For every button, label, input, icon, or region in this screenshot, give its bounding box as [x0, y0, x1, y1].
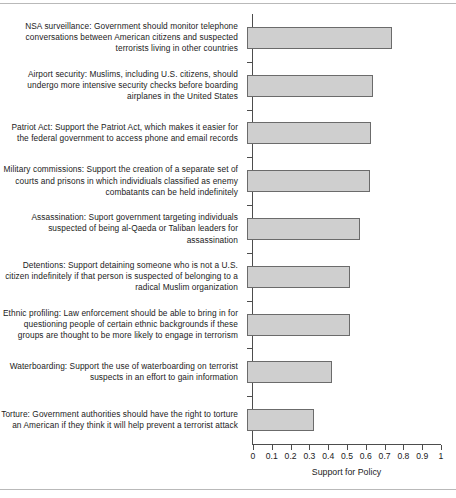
x-axis-tick	[328, 445, 329, 450]
bar	[247, 409, 314, 431]
bar-category-label: Ethnic profiling: Law enforcement should…	[0, 308, 246, 342]
x-axis-tick	[403, 445, 404, 450]
bar	[247, 314, 350, 336]
x-axis-tick-label: 0.9	[416, 451, 428, 461]
bar-row: Waterboarding: Support the use of waterb…	[0, 348, 456, 396]
bar-track	[246, 157, 456, 205]
x-axis-tick	[441, 445, 442, 450]
x-axis-tick	[253, 445, 254, 450]
x-axis-label: Support for Policy	[252, 467, 441, 477]
x-axis-tick-label: 0.7	[379, 451, 391, 461]
x-axis-tick-label: 0	[251, 451, 256, 461]
x-axis-tick	[385, 445, 386, 450]
bar-track	[246, 62, 456, 110]
bar-track	[246, 301, 456, 349]
bar-track	[246, 110, 456, 158]
x-axis-tick-label: 0.1	[266, 451, 278, 461]
bar	[247, 218, 360, 240]
x-axis-tick-label: 0.4	[322, 451, 334, 461]
bar-track	[246, 348, 456, 396]
bar-row: Assassination: Suport government targeti…	[0, 205, 456, 253]
bar	[247, 266, 350, 288]
bar	[247, 122, 371, 144]
bar-category-label: NSA surveillance: Government should moni…	[0, 21, 246, 55]
x-axis-tick	[309, 445, 310, 450]
bar-category-label: Patriot Act: Support the Patriot Act, wh…	[0, 122, 246, 144]
bar-row: Ethnic profiling: Law enforcement should…	[0, 301, 456, 349]
x-axis-tick-label: 0.6	[360, 451, 372, 461]
x-axis-tick-label: 0.3	[303, 451, 315, 461]
bar-category-label: Assassination: Suport government targeti…	[0, 212, 246, 246]
x-axis-tick	[347, 445, 348, 450]
bar-row: Patriot Act: Support the Patriot Act, wh…	[0, 110, 456, 158]
bar-track	[246, 396, 456, 444]
x-axis-tick-label: 0.2	[285, 451, 297, 461]
bar-row: Torture: Government authorities should h…	[0, 396, 456, 444]
x-axis-tick	[291, 445, 292, 450]
x-axis-tick-label: 1	[439, 451, 444, 461]
x-axis-tick	[366, 445, 367, 450]
bar-row: Detentions: Support detaining someone wh…	[0, 253, 456, 301]
bar-row: Military commissions: Support the creati…	[0, 157, 456, 205]
figure-top-rule	[0, 3, 456, 4]
x-axis-tick-label: 0.5	[341, 451, 353, 461]
bar	[247, 27, 392, 49]
chart-figure: NSA surveillance: Government should moni…	[0, 0, 456, 498]
bar	[247, 170, 370, 192]
bar-row: NSA surveillance: Government should moni…	[0, 14, 456, 62]
bar-category-label: Airport security: Muslims, including U.S…	[0, 69, 246, 103]
x-axis-tick	[272, 445, 273, 450]
x-axis: Support for Policy 00.10.20.30.40.50.60.…	[0, 444, 456, 498]
x-axis-tick-label: 0.8	[397, 451, 409, 461]
bar-category-label: Detentions: Support detaining someone wh…	[0, 260, 246, 294]
bar-category-label: Torture: Government authorities should h…	[0, 409, 246, 431]
bar-track	[246, 253, 456, 301]
bar	[247, 75, 373, 97]
bar-category-label: Waterboarding: Support the use of waterb…	[0, 361, 246, 383]
bar-track	[246, 205, 456, 253]
bar-category-label: Military commissions: Support the creati…	[0, 164, 246, 198]
bar-row: Airport security: Muslims, including U.S…	[0, 62, 456, 110]
x-axis-tick	[422, 445, 423, 450]
bar-track	[246, 14, 456, 62]
plot-area: NSA surveillance: Government should moni…	[0, 14, 456, 444]
bar	[247, 361, 332, 383]
